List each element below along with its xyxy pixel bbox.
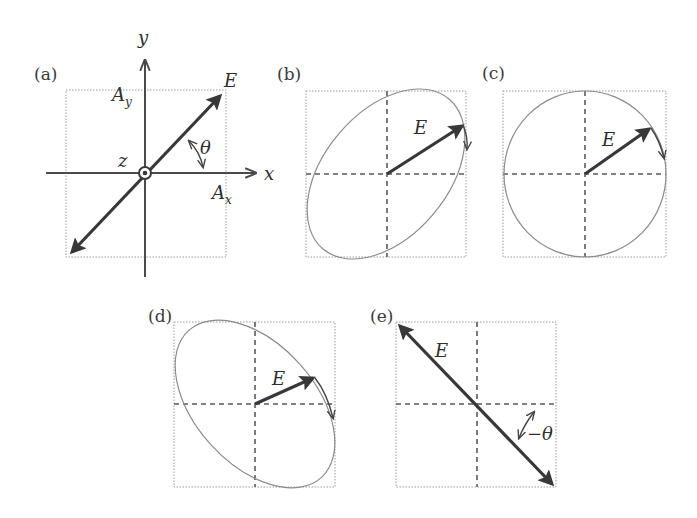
panel-b: (b) E (276, 59, 497, 289)
neg-theta-label: −θ (527, 423, 553, 444)
panel-d-label: (d) (148, 306, 172, 326)
e-vector-label: E (223, 70, 237, 91)
panel-a: (a) y x z E A y A x θ (34, 27, 274, 277)
rotation-arrow-icon (651, 128, 664, 158)
panel-d: (d) E (144, 290, 366, 517)
ax-subscript: x (225, 193, 232, 207)
ay-label: A (110, 84, 125, 105)
y-axis-label: y (137, 27, 149, 48)
theta-label: θ (200, 137, 211, 158)
z-axis-label: z (117, 150, 128, 171)
rotation-arrow-icon (315, 378, 333, 418)
panel-c-label: (c) (482, 63, 505, 83)
e-vector-label: E (434, 340, 448, 361)
e-vector-label: E (413, 117, 427, 138)
e-field-vector (585, 129, 649, 174)
polarization-figure: (a) y x z E A y A x θ (b) E (c) E (0, 0, 697, 518)
x-axis-label: x (264, 163, 274, 184)
panel-a-label: (a) (34, 64, 57, 84)
e-field-vector (400, 326, 552, 484)
panel-e: (e) E −θ (370, 306, 556, 487)
e-vector-label: E (271, 368, 285, 389)
panel-b-label: (b) (277, 64, 301, 84)
e-vector-label: E (601, 129, 615, 150)
ay-subscript: y (124, 95, 132, 109)
ax-label: A (210, 182, 225, 203)
panel-e-label: (e) (370, 306, 393, 326)
panel-c: (c) E (482, 63, 666, 257)
